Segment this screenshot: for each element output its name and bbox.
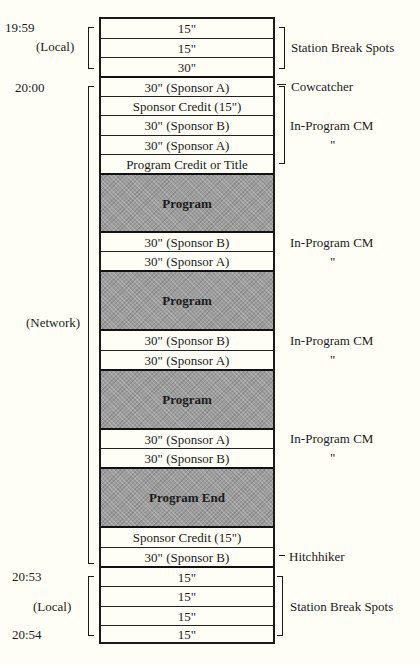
bracket-station-break-bottom [277, 576, 283, 636]
bracket-network [88, 86, 94, 564]
tick-hitchhiker [279, 555, 285, 556]
schedule-row: 15" [101, 568, 273, 587]
segment-label-local-top: (Local) [36, 40, 74, 53]
schedule-row: 30" (Sponsor B) [101, 116, 273, 136]
segment-label-local-bottom: (Local) [33, 600, 71, 613]
annotation-in-program-cm: In-Program CM [290, 334, 373, 347]
schedule-row: Sponsor Credit (15") [101, 528, 273, 548]
tick-cowcatcher [277, 84, 286, 85]
schedule-row: 30" (Sponsor A) [101, 351, 273, 371]
annotation-cowcatcher: Cowcatcher [291, 80, 353, 93]
segment-label-network: (Network) [26, 316, 80, 329]
schedule-row: 30" (Sponsor B) [101, 233, 273, 252]
schedule-row: 15" [101, 587, 273, 607]
schedule-row: 30" (Sponsor A) [101, 430, 273, 449]
program-end-block: Program End [101, 469, 273, 528]
annotation-ditto: " [330, 451, 335, 464]
schedule-row: 15" [101, 626, 273, 642]
bracket-local-top [88, 27, 94, 69]
annotation-ditto: " [330, 138, 335, 151]
annotation-in-program-cm: In-Program CM [290, 432, 373, 445]
schedule-row: 30" (Sponsor B) [101, 449, 273, 469]
bracket-local-bottom [88, 576, 94, 636]
schedule-column: 15" 15" 30" 30" (Sponsor A) Sponsor Cred… [99, 17, 275, 644]
program-block: Program [101, 175, 273, 233]
schedule-row: 30" [101, 58, 273, 78]
annotation-in-program-cm: In-Program CM [290, 119, 373, 132]
annotation-station-break-bottom: Station Break Spots [290, 600, 393, 613]
schedule-row: 30" (Sponsor B) [101, 548, 273, 568]
time-label-2054: 20:54 [12, 628, 42, 641]
schedule-row: Sponsor Credit (15") [101, 97, 273, 116]
annotation-ditto: " [330, 353, 335, 366]
program-block: Program [101, 371, 273, 430]
schedule-row: Program Credit or Title [101, 155, 273, 175]
time-label-2000: 20:00 [15, 81, 45, 94]
schedule-row: 30" (Sponsor A) [101, 136, 273, 155]
schedule-row: 30" (Sponsor A) [101, 78, 273, 97]
bracket-in-program-first [279, 86, 285, 164]
time-label-1959: 19:59 [5, 21, 35, 34]
schedule-row: 15" [101, 607, 273, 626]
annotation-in-program-cm: In-Program CM [290, 236, 373, 249]
annotation-ditto: " [330, 255, 335, 268]
schedule-row: 30" (Sponsor A) [101, 252, 273, 272]
program-block: Program [101, 272, 273, 331]
schedule-row: 30" (Sponsor B) [101, 331, 273, 351]
schedule-row: 15" [101, 39, 273, 58]
time-label-2053: 20:53 [12, 570, 42, 583]
bracket-station-break-top [279, 27, 285, 69]
schedule-row: 15" [101, 19, 273, 39]
annotation-station-break-top: Station Break Spots [291, 41, 394, 54]
annotation-hitchhiker: Hitchhiker [289, 550, 345, 563]
